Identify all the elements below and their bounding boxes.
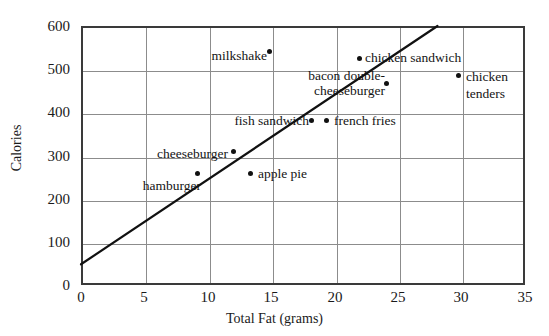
- x-tick-0: 0: [61, 289, 101, 305]
- data-point-fish-sandwich[interactable]: [309, 118, 314, 123]
- data-point-apple-pie[interactable]: [248, 171, 253, 176]
- x-tick-20: 20: [315, 289, 355, 305]
- point-label-cheeseburger: cheeseburger: [157, 146, 228, 161]
- y-tick-500: 500: [0, 61, 70, 77]
- data-point-french-fries[interactable]: [324, 118, 329, 123]
- y-axis-title: Calories: [9, 103, 25, 193]
- x-tick-35: 35: [505, 289, 545, 305]
- x-axis-title: Total Fat (grams): [0, 311, 549, 327]
- x-tick-30: 30: [441, 289, 481, 305]
- gridline-x5: [146, 28, 147, 283]
- point-label-hamburger: hamburger: [143, 178, 201, 193]
- point-label-french-fries: french fries: [334, 113, 396, 128]
- gridline-x25: [400, 28, 401, 283]
- gridline-x20: [337, 28, 338, 283]
- gridline-x30: [463, 28, 464, 283]
- plot-area: milkshake cheeseburger hamburger apple p…: [81, 26, 525, 285]
- data-point-chicken-tenders[interactable]: [456, 73, 461, 78]
- point-label-bacon-line2: cheeseburger: [314, 83, 385, 98]
- gridline-300: [83, 158, 523, 159]
- data-point-hamburger[interactable]: [195, 171, 200, 176]
- data-point-chicken-sandwich[interactable]: [357, 56, 362, 61]
- point-label-fish-sandwich: fish sandwich: [234, 113, 309, 128]
- point-label-apple-pie: apple pie: [258, 166, 307, 181]
- x-tick-15: 15: [251, 289, 291, 305]
- gridline-100: [83, 244, 523, 245]
- x-tick-5: 5: [124, 289, 164, 305]
- y-tick-200: 200: [0, 191, 70, 207]
- scatter-chart: 600 500 400 300 200 100 0 Calories: [0, 0, 549, 336]
- gridline-x15: [273, 28, 274, 283]
- point-label-chicken-tenders: chicken tenders: [466, 68, 528, 102]
- point-label-bacon-line1: bacon double-: [308, 68, 385, 83]
- point-label-bacon-double-cheeseburger: bacon double- cheeseburger: [273, 68, 385, 98]
- point-label-milkshake: milkshake: [212, 48, 268, 63]
- gridline-200: [83, 201, 523, 202]
- x-tick-25: 25: [378, 289, 418, 305]
- point-label-chicken-sandwich: chicken sandwich: [365, 50, 461, 65]
- data-point-cheeseburger[interactable]: [231, 149, 236, 154]
- y-tick-600: 600: [0, 18, 70, 34]
- x-tick-10: 10: [188, 289, 228, 305]
- data-point-milkshake[interactable]: [267, 49, 272, 54]
- y-tick-100: 100: [0, 234, 70, 250]
- y-tick-0: 0: [0, 277, 70, 293]
